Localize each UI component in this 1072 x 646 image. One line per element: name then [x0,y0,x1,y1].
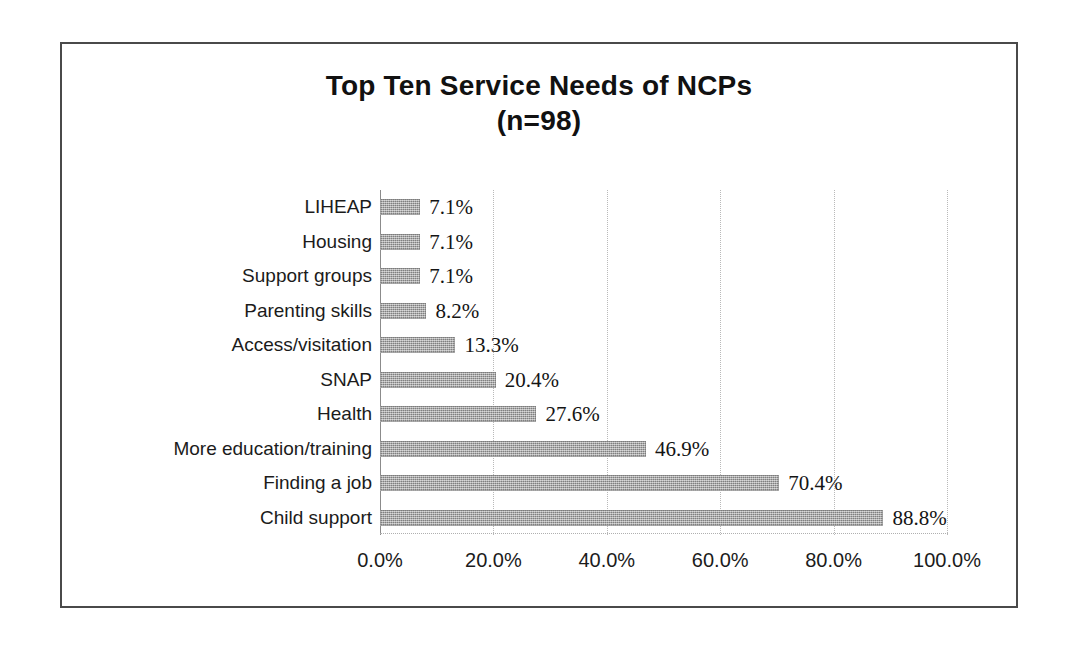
bar-value-label: 13.3% [464,333,518,358]
category-label: Housing [302,231,372,253]
chart-title-line-1: Top Ten Service Needs of NCPs [62,68,1016,103]
bar [380,268,420,284]
bar [380,372,496,388]
x-tick-label: 80.0% [805,549,862,572]
bar [380,234,420,250]
bar-value-label: 70.4% [788,471,842,496]
bar-value-label: 7.1% [429,229,473,254]
bar-row: More education/training46.9% [380,432,947,467]
bar-row: Finding a job70.4% [380,466,947,501]
bar-value-label: 7.1% [429,264,473,289]
bar [380,510,883,526]
bar-value-label: 20.4% [505,367,559,392]
category-label: Parenting skills [244,300,372,322]
bar-value-label: 7.1% [429,195,473,220]
category-label: More education/training [173,438,372,460]
chart-frame: Top Ten Service Needs of NCPs (n=98) LIH… [60,42,1018,608]
chart-title-line-2: (n=98) [62,103,1016,138]
x-axis-baseline [380,533,948,535]
plot-area: LIHEAP7.1%Housing7.1%Support groups7.1%P… [380,190,947,535]
bar [380,303,426,319]
category-label: Finding a job [263,472,372,494]
bar [380,337,455,353]
bar-row: Child support88.8% [380,501,947,536]
category-label: Child support [260,507,372,529]
bar-row: Health27.6% [380,397,947,432]
bar-value-label: 27.6% [545,402,599,427]
bar-value-label: 46.9% [655,436,709,461]
category-label: Support groups [242,265,372,287]
x-tick-label: 0.0% [357,549,403,572]
bar-row: SNAP20.4% [380,363,947,398]
bar [380,199,420,215]
bar-value-label: 88.8% [892,505,946,530]
bar-row: Housing7.1% [380,225,947,260]
bar [380,406,536,422]
chart-title: Top Ten Service Needs of NCPs (n=98) [62,68,1016,139]
x-axis-tick-labels: 0.0%20.0%40.0%60.0%80.0%100.0% [380,549,947,579]
bar-row: Parenting skills8.2% [380,294,947,329]
category-label: LIHEAP [304,196,372,218]
bar-row: LIHEAP7.1% [380,190,947,225]
category-label: SNAP [320,369,372,391]
x-tick-label: 40.0% [578,549,635,572]
category-label: Access/visitation [232,334,372,356]
bar-row: Access/visitation13.3% [380,328,947,363]
bar-row: Support groups7.1% [380,259,947,294]
x-tick-label: 60.0% [692,549,749,572]
x-tick-label: 100.0% [913,549,981,572]
category-label: Health [317,403,372,425]
bar-value-label: 8.2% [435,298,479,323]
bar [380,441,646,457]
gridline-100.0% [947,190,949,535]
bar [380,475,779,491]
x-tick-label: 20.0% [465,549,522,572]
